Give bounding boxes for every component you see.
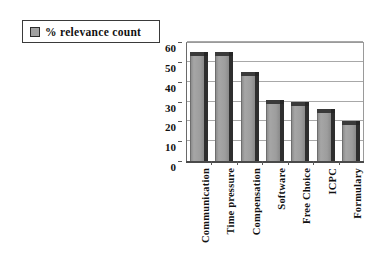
bar-top-face [291, 102, 305, 106]
bar-top-face [241, 72, 255, 76]
bar-front-face [241, 72, 255, 161]
x-tick-mark-4 [288, 161, 289, 165]
bar-top-corner [280, 100, 284, 104]
x-category-label: Formulary [352, 168, 363, 219]
bar[interactable] [241, 72, 255, 161]
bar-top-corner [305, 102, 309, 106]
bar[interactable] [291, 102, 305, 162]
chart-legend: % relevance count [22, 20, 160, 43]
bar-chart-figure: % relevance count 0102030405060 Communic… [0, 0, 385, 278]
x-category-label: Time pressure [225, 168, 236, 234]
bar-top-corner [331, 109, 335, 113]
x-axis-category-labels: CommunicationTime pressureCompensationSo… [186, 168, 364, 276]
y-tick-mark-20 [178, 121, 182, 122]
y-tick-mark-60 [178, 42, 182, 43]
x-category-label: ICPC [327, 168, 338, 194]
bar[interactable] [342, 121, 356, 161]
bar-top-face [317, 109, 331, 113]
bar-top-corner [356, 121, 360, 125]
y-tick-mark-50 [178, 62, 182, 63]
bar-side-face [331, 109, 335, 161]
bar-side-face [305, 102, 309, 162]
legend-label: % relevance count [45, 26, 141, 38]
y-tick-mark-0 [178, 161, 182, 162]
bar-side-face [280, 100, 284, 161]
bar-front-face [342, 121, 356, 161]
bar[interactable] [266, 100, 280, 161]
y-tick-mark-40 [178, 82, 182, 83]
legend-swatch-icon [30, 27, 40, 37]
x-tick-mark-5 [313, 161, 314, 165]
bar-side-face [229, 52, 233, 161]
y-tick-mark-30 [178, 102, 182, 103]
bar-front-face [190, 52, 204, 161]
bar-side-face [204, 52, 208, 161]
bar-top-face [266, 100, 280, 104]
x-tick-mark-6 [339, 161, 340, 165]
bar-top-face [215, 52, 229, 56]
y-axis: 0102030405060 [150, 42, 182, 161]
bar-top-face [342, 121, 356, 125]
y-tick-mark-10 [178, 141, 182, 142]
bar[interactable] [317, 109, 331, 161]
bar-side-face [356, 121, 360, 161]
bar-front-face [317, 109, 331, 161]
x-tick-mark-2 [237, 161, 238, 165]
x-tick-mark-1 [211, 161, 212, 165]
bar[interactable] [215, 52, 229, 161]
x-tick-mark-3 [262, 161, 263, 165]
bar-top-corner [255, 72, 259, 76]
bar-front-face [291, 102, 305, 162]
bar-side-face [255, 72, 259, 161]
bar-top-corner [229, 52, 233, 56]
x-category-label: Free Choice [301, 168, 312, 224]
bar-front-face [215, 52, 229, 161]
x-category-label: Compensation [251, 168, 262, 235]
x-category-label: Software [276, 168, 287, 210]
bar[interactable] [190, 52, 204, 161]
bar-top-corner [204, 52, 208, 56]
x-category-label: Communication [200, 168, 211, 243]
bars-layer [186, 42, 364, 161]
bar-top-face [190, 52, 204, 56]
bar-front-face [266, 100, 280, 161]
x-axis-ticks [186, 161, 364, 166]
